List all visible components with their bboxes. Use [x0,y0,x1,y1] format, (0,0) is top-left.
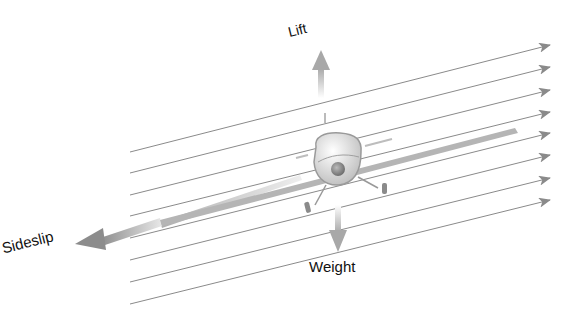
lift-arrow [312,50,330,123]
aircraft [296,133,392,213]
weight-label: Weight [309,258,355,275]
sideslip-arrow [75,175,302,250]
sideslip-diagram: Lift Weight Sideslip [0,0,570,318]
diagram-canvas [0,0,570,318]
